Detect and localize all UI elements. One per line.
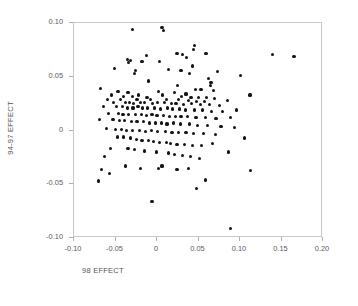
x-axis-title: 98 EFFECT <box>82 266 124 275</box>
x-tick-label: 0.20 <box>302 245 342 252</box>
x-tick-label: -0.05 <box>95 245 135 252</box>
x-tick-label: 0.10 <box>219 245 259 252</box>
x-tick-label: 0.05 <box>178 245 218 252</box>
y-axis-title: 94-97 EFFECT <box>6 101 15 154</box>
x-tick-label: -0.10 <box>53 245 93 252</box>
x-tick-label: 0 <box>136 245 176 252</box>
scatter-plot-figure: -0.10-0.0500.050.10 -0.10-0.0500.050.100… <box>0 0 358 306</box>
x-axis-tick-labels: -0.10-0.0500.050.100.150.20 <box>0 0 358 306</box>
x-tick-label: 0.15 <box>261 245 301 252</box>
